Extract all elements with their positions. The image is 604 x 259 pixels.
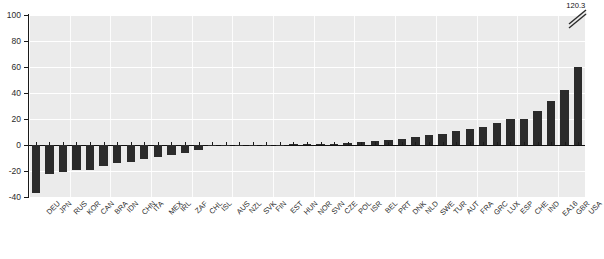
y-axis-tick-label: 100 bbox=[0, 11, 21, 20]
x-axis-label-ind: IND bbox=[545, 199, 560, 214]
x-axis-tick bbox=[226, 142, 227, 145]
x-axis-tick bbox=[578, 142, 579, 145]
bar-jpn bbox=[45, 145, 53, 174]
x-axis-tick bbox=[524, 142, 525, 145]
x-axis-tick bbox=[551, 142, 552, 145]
x-axis-tick bbox=[49, 142, 50, 145]
bar-deu bbox=[32, 145, 40, 193]
x-axis-tick bbox=[497, 142, 498, 145]
x-axis-tick bbox=[348, 142, 349, 145]
x-axis-label-idn: IDN bbox=[125, 199, 140, 214]
bar-isl bbox=[208, 145, 216, 146]
x-axis-tick bbox=[144, 142, 145, 145]
x-axis-label-isl: ISL bbox=[219, 199, 233, 213]
bar-nzl bbox=[235, 145, 243, 146]
y-axis-tick-label: -40 bbox=[0, 193, 21, 202]
x-axis-tick bbox=[443, 142, 444, 145]
x-axis-tick bbox=[429, 142, 430, 145]
x-axis-tick bbox=[76, 142, 77, 145]
x-axis-label-nld: NLD bbox=[424, 199, 441, 216]
bar-chl bbox=[194, 145, 202, 150]
x-axis-tick bbox=[538, 142, 539, 145]
bars-layer bbox=[29, 15, 585, 197]
x-axis-tick bbox=[239, 142, 240, 145]
bar-aus bbox=[221, 145, 229, 146]
bar-irl bbox=[167, 145, 175, 155]
x-axis-tick bbox=[199, 142, 200, 145]
x-axis-tick bbox=[90, 142, 91, 145]
bar-gbr bbox=[560, 90, 568, 145]
bar-svk bbox=[249, 145, 257, 146]
x-axis-tick bbox=[307, 142, 308, 145]
bar-zaf bbox=[181, 145, 189, 153]
bar-kor bbox=[72, 145, 80, 170]
x-axis-label-zaf: ZAF bbox=[193, 199, 209, 215]
x-axis-tick bbox=[280, 142, 281, 145]
x-axis-label-isr: ISR bbox=[369, 199, 384, 214]
x-axis-tick bbox=[131, 142, 132, 145]
y-axis-tick-label: 40 bbox=[0, 89, 21, 98]
bar-idn bbox=[113, 145, 121, 163]
x-axis-tick bbox=[510, 142, 511, 145]
axis-break-icon bbox=[567, 9, 589, 31]
x-axis-label-jpn: JPN bbox=[57, 199, 73, 215]
x-axis-tick bbox=[456, 142, 457, 145]
bar-ind bbox=[533, 111, 541, 145]
x-axis-tick bbox=[171, 142, 172, 145]
x-axis-tick bbox=[266, 142, 267, 145]
x-axis-tick bbox=[212, 142, 213, 145]
x-axis-tick bbox=[185, 142, 186, 145]
bar-rus bbox=[59, 145, 67, 172]
x-axis-label-usa: USA bbox=[587, 199, 604, 216]
x-axis-tick bbox=[415, 142, 416, 145]
x-axis-tick bbox=[63, 142, 64, 145]
x-axis-tick bbox=[36, 142, 37, 145]
x-axis-tick bbox=[483, 142, 484, 145]
y-axis-tick-label: 60 bbox=[0, 63, 21, 72]
x-axis-label-prt: PRT bbox=[397, 199, 414, 216]
y-axis-tick-label: 0 bbox=[0, 141, 21, 150]
x-axis-tick bbox=[361, 142, 362, 145]
x-axis-label-nzl: NZL bbox=[247, 199, 263, 215]
x-axis-tick bbox=[334, 142, 335, 145]
x-axis-tick bbox=[117, 142, 118, 145]
bar-can bbox=[86, 145, 94, 170]
bar-chn bbox=[127, 145, 135, 162]
x-axis-tick bbox=[470, 142, 471, 145]
x-axis-tick bbox=[375, 142, 376, 145]
bar-ita bbox=[140, 145, 148, 159]
x-axis-label-esp: ESP bbox=[519, 199, 536, 216]
x-axis-label-fra: FRA bbox=[478, 199, 495, 216]
x-axis-tick bbox=[104, 142, 105, 145]
bar-bra bbox=[99, 145, 107, 166]
x-axis-tick bbox=[565, 142, 566, 145]
x-axis-tick bbox=[388, 142, 389, 145]
x-axis-tick bbox=[321, 142, 322, 145]
x-axis-tick bbox=[253, 142, 254, 145]
x-axis-label-fin: FIN bbox=[274, 199, 289, 214]
x-axis-tick bbox=[158, 142, 159, 145]
bar-usa bbox=[574, 67, 582, 145]
y-axis-tick-label: -20 bbox=[0, 167, 21, 176]
bar-ea16 bbox=[547, 101, 555, 145]
y-axis-tick-label: 80 bbox=[0, 37, 21, 46]
x-axis-tick bbox=[293, 142, 294, 145]
x-axis-labels: DEUJPNRUSKORCANBRAIDNCHNITAMEXIRLZAFCHLI… bbox=[29, 199, 585, 259]
x-axis-tick bbox=[402, 142, 403, 145]
x-axis-label-est: EST bbox=[288, 199, 305, 216]
gridline-horizontal bbox=[29, 197, 585, 198]
bar-mex bbox=[154, 145, 162, 157]
y-axis-tick-label: 20 bbox=[0, 115, 21, 124]
